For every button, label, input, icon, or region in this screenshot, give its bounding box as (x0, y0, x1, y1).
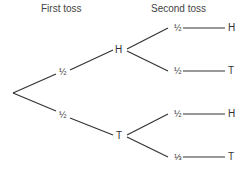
node-first-H: H (115, 45, 122, 55)
branch-root-lower (13, 93, 56, 111)
node-HT: T (228, 66, 234, 76)
branch-lower-to-T (70, 118, 113, 135)
node-first-T: T (116, 131, 122, 141)
prob-first-H: ½ (59, 67, 67, 77)
prob-first-T: ½ (59, 110, 67, 120)
branch-H-lower (127, 51, 168, 71)
prob-HH: ½ (174, 23, 182, 33)
prob-TH: ½ (174, 109, 182, 119)
branch-upper-to-H (70, 50, 113, 70)
node-TT: T (228, 152, 234, 162)
node-HH: H (228, 23, 235, 33)
header-second-toss: Second toss (151, 4, 206, 14)
prob-TT: ⅓ (174, 152, 182, 162)
prob-HT: ½ (174, 66, 182, 76)
branch-H-upper (127, 28, 168, 49)
branch-T-upper (127, 114, 168, 135)
header-first-toss: First toss (41, 4, 82, 14)
branch-T-lower (127, 137, 168, 157)
node-TH: H (228, 109, 235, 119)
tree-lines (0, 0, 247, 179)
branch-root-upper (13, 74, 56, 93)
